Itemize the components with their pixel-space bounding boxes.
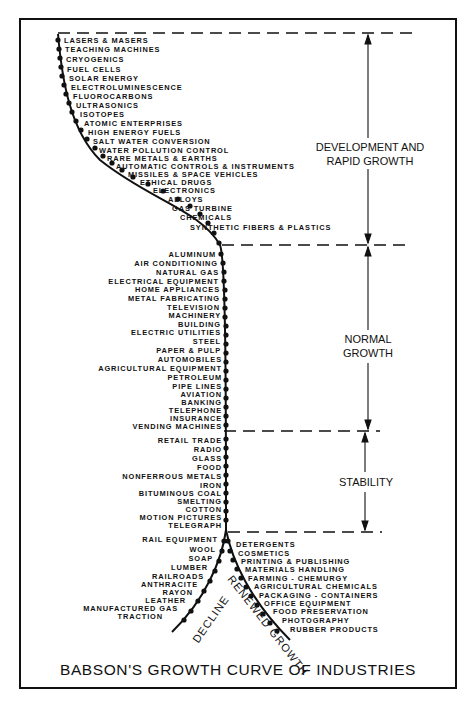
- industry-label: METAL FABRICATING: [128, 294, 220, 303]
- industry-label: MACHINERY: [168, 311, 221, 320]
- industry-label: RUBBER PRODUCTS: [290, 625, 379, 634]
- industry-label: CRYOGENICS: [66, 55, 124, 64]
- industry-label: ISOTOPES: [80, 110, 125, 119]
- industry-label: WOOL: [189, 545, 216, 554]
- industry-label: ELECTRIC UTILITIES: [131, 328, 221, 337]
- industry-label: AGRICULTURAL EQUIPMENT: [98, 364, 222, 373]
- industry-label: LUMBER: [171, 563, 208, 572]
- industry-label: ALUMINUM: [169, 250, 216, 259]
- industry-label: RADIO: [194, 445, 222, 454]
- industry-label: LASERS & MASERS: [64, 36, 149, 45]
- industry-label: NONFERROUS METALS: [122, 472, 222, 481]
- industry-label: NATURAL GAS: [156, 268, 219, 277]
- industry-label: SOAP: [188, 554, 213, 563]
- industry-label: TEACHING MACHINES: [65, 45, 160, 54]
- industry-label: SOLAR ENERGY: [69, 74, 139, 83]
- industry-label: HIGH ENERGY FUELS: [88, 128, 181, 137]
- industry-label: SYNTHETIC FIBERS & PLASTICS: [190, 223, 331, 232]
- industry-label: PHOTOGRAPHY: [282, 616, 350, 625]
- industry-label: FOOD: [197, 463, 222, 472]
- industry-label: STEEL: [193, 337, 221, 346]
- industry-label: AGRICULTURAL CHEMICALS: [254, 582, 378, 591]
- industry-label: ULTRASONICS: [76, 101, 139, 110]
- industry-label: ATOMIC ENTERPRISES: [84, 119, 183, 128]
- industry-label: FUEL CELLS: [67, 65, 121, 74]
- industry-label: TELEGRAPH: [168, 521, 222, 530]
- industry-label: FOOD PRESERVATION: [273, 607, 369, 616]
- industry-label: FLUOROCARBONS: [73, 92, 153, 101]
- industry-label: DETERGENTS: [236, 540, 296, 549]
- industry-label: HOME APPLIANCES: [135, 285, 220, 294]
- stage-label-line: DEVELOPMENT AND: [310, 140, 430, 154]
- industry-label: SALT WATER CONVERSION: [93, 137, 211, 146]
- stage-label-development: DEVELOPMENT AND RAPID GROWTH: [310, 140, 430, 168]
- stage-label-line: RAPID GROWTH: [310, 154, 430, 168]
- industry-label: PAPER & PULP: [156, 346, 221, 355]
- industry-label: AUTOMOBILES: [158, 355, 222, 364]
- industry-label: GLASS: [192, 454, 222, 463]
- industry-label: ALLOYS: [168, 195, 203, 204]
- industry-label: CHEMICALS: [180, 213, 232, 222]
- stage-label-line: NORMAL: [338, 332, 398, 346]
- industry-label: ELECTROLUMINESCENCE: [71, 83, 183, 92]
- diagram-title: BABSON'S GROWTH CURVE OF INDUSTRIES: [19, 661, 457, 679]
- industry-label: RETAIL TRADE: [158, 436, 222, 445]
- stage-label-line: GROWTH: [338, 346, 398, 360]
- industry-label: TRACTION: [118, 612, 163, 621]
- industry-label: GAS TURBINE: [172, 204, 233, 213]
- industry-label: AIR CONDITIONING: [134, 259, 218, 268]
- industry-label: ELECTRONICS: [153, 186, 216, 195]
- industry-label: VENDING MACHINES: [132, 422, 222, 431]
- stage-label-normal: NORMAL GROWTH: [338, 332, 398, 360]
- stage-label-line: STABILITY: [336, 475, 396, 489]
- stage-label-stability: STABILITY: [336, 475, 396, 489]
- industry-label: RAIL EQUIPMENT: [142, 535, 218, 544]
- industry-label: PETROLEUM: [168, 373, 223, 382]
- industry-label: MATERIALS HANDLING: [245, 565, 345, 574]
